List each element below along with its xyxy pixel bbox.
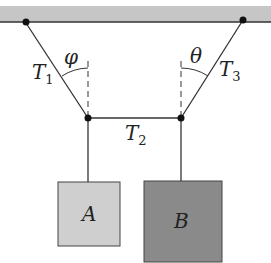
- label-block-a: A: [80, 202, 96, 226]
- angle-arc-theta: [181, 68, 208, 76]
- label-theta: θ: [190, 44, 202, 68]
- angle-arc-phi: [62, 68, 88, 76]
- label-block-b: B: [173, 209, 189, 233]
- label-phi: φ: [64, 45, 78, 69]
- label-t1: T1: [32, 60, 54, 87]
- anchor-left: [23, 19, 30, 26]
- label-t2: T2: [125, 121, 147, 148]
- tension-diagram: T1 φ θ T3 T2 A B: [0, 0, 271, 263]
- ceiling: [0, 6, 271, 22]
- label-t3: T3: [219, 57, 241, 84]
- anchor-right: [240, 17, 247, 24]
- junction-left: [85, 115, 92, 122]
- junction-right: [178, 115, 185, 122]
